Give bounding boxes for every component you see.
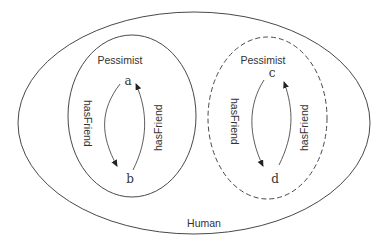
pessimist-label-left: Pessimist [98, 54, 143, 66]
human-class-ellipse [18, 12, 370, 234]
edge-c-to-d [252, 80, 264, 166]
diagram-canvas: Human Pessimist a b hasFriend hasFriend … [0, 0, 384, 245]
edge-label-c-to-d: hasFriend [229, 98, 241, 145]
individual-c: c [269, 66, 276, 80]
edge-label-b-to-a: hasFriend [152, 104, 164, 151]
pessimist-label-right: Pessimist [241, 54, 286, 66]
individual-d: d [271, 172, 279, 186]
edge-b-to-a [133, 84, 145, 170]
edge-label-a-to-b: hasFriend [82, 100, 94, 147]
edge-d-to-c [279, 82, 291, 165]
individual-a: a [124, 74, 131, 88]
individual-b: b [126, 172, 134, 186]
human-label: Human [187, 217, 221, 229]
edge-a-to-b [105, 84, 120, 166]
edge-label-d-to-c: hasFriend [298, 104, 310, 151]
